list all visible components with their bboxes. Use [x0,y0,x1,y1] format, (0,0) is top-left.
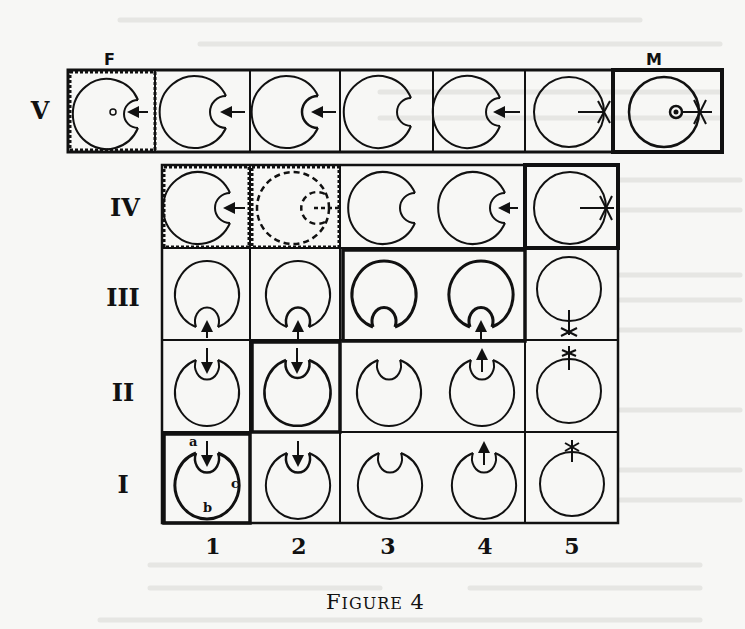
cell-ii1 [175,348,239,426]
cell-v2 [160,76,245,148]
cell-ii5 [537,346,601,423]
column-label-1: 1 [198,533,228,559]
figure-caption: FIGURE 4 [326,590,425,614]
cell-iii2 [266,261,330,340]
cell-i5 [540,440,604,516]
column-label-3: 3 [373,533,403,559]
cell-v5 [433,76,520,148]
cell-v6 [534,77,610,147]
cell-ii2 [265,348,331,426]
cell-i3 [358,453,422,519]
cell-v7-m [629,77,712,147]
label-f: F [104,50,115,69]
row-label-v: V [20,96,60,125]
cell-ii3 [357,360,421,426]
row-label-ii: II [103,378,143,407]
cell-iii3 [352,261,416,327]
cell-iv3 [348,172,415,244]
cell-iii4 [449,261,513,340]
column-label-5: 5 [557,533,587,559]
cell-i2 [266,441,330,519]
row-v [68,70,722,152]
row-label-i: I [103,470,143,499]
caption-rest: IGURE [342,594,403,613]
cell-iv1 [163,172,245,244]
cell-letter-c: c [231,476,239,491]
cell-iv2 [257,172,339,244]
lower-grid [162,165,618,523]
cell-iii1 [175,261,239,338]
row-label-iv: IV [105,193,145,222]
cell-letter-b: b [203,500,212,515]
cell-iv5 [534,172,614,244]
caption-number: 4 [411,590,425,614]
column-label-2: 2 [284,533,314,559]
label-m: M [646,50,662,69]
cell-iv4 [438,172,518,244]
cell-iii5 [537,257,601,336]
column-label-4: 4 [470,533,500,559]
cell-v3 [252,76,336,148]
cell-ii4 [450,350,514,426]
cell-v4 [344,76,411,148]
cell-v1 [73,79,148,149]
caption-initial: F [326,590,342,614]
cell-i4 [452,443,516,519]
row-label-iii: III [103,283,143,312]
cell-letter-a: a [189,434,197,449]
